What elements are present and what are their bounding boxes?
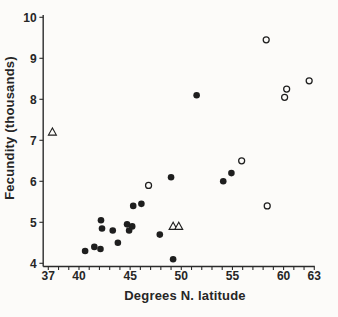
data-point-filled-circle bbox=[129, 223, 136, 230]
data-point-filled-circle bbox=[98, 217, 105, 224]
y-tick-label: 9 bbox=[30, 52, 37, 66]
scatter-figure: 3740455055606345678910 Degrees N. latitu… bbox=[0, 0, 338, 317]
x-tick-label: 45 bbox=[123, 269, 137, 283]
y-axis-title: Fecundity (thousands) bbox=[2, 56, 17, 200]
y-tick-label: 10 bbox=[23, 11, 37, 25]
data-point-open-circle bbox=[263, 37, 269, 43]
x-tick-label: 50 bbox=[175, 269, 189, 283]
x-tick-label: 55 bbox=[226, 269, 240, 283]
scatter-plot: 3740455055606345678910 Degrees N. latitu… bbox=[0, 0, 338, 317]
data-point-open-circle bbox=[239, 158, 245, 164]
data-point-filled-circle bbox=[220, 178, 227, 185]
x-tick-label: 40 bbox=[72, 269, 86, 283]
x-tick-label: 37 bbox=[42, 269, 56, 283]
x-tick-label: 63 bbox=[308, 269, 322, 283]
axis-ticks: 3740455055606345678910 bbox=[23, 11, 321, 284]
data-point-open-circle bbox=[264, 203, 270, 209]
y-tick-label: 7 bbox=[30, 134, 37, 148]
data-point-filled-circle bbox=[138, 201, 145, 208]
y-tick-label: 6 bbox=[30, 175, 37, 189]
data-points bbox=[48, 37, 312, 263]
x-tick-label: 60 bbox=[277, 269, 291, 283]
data-point-filled-circle bbox=[109, 227, 116, 234]
data-point-filled-circle bbox=[170, 256, 177, 263]
x-axis-title: Degrees N. latitude bbox=[124, 288, 246, 303]
data-point-filled-circle bbox=[91, 244, 98, 251]
data-point-filled-circle bbox=[82, 248, 89, 255]
data-point-open-circle bbox=[284, 86, 290, 92]
data-point-filled-circle bbox=[97, 246, 104, 253]
data-point-open-circle bbox=[146, 182, 152, 188]
y-tick-label: 8 bbox=[30, 93, 37, 107]
y-tick-label: 4 bbox=[30, 257, 37, 271]
data-point-filled-circle bbox=[193, 92, 200, 99]
data-point-open-triangle bbox=[48, 128, 56, 135]
data-point-filled-circle bbox=[115, 240, 122, 247]
data-point-filled-circle bbox=[228, 170, 235, 177]
data-point-open-triangle bbox=[175, 222, 183, 229]
y-tick-label: 5 bbox=[30, 216, 37, 230]
data-point-filled-circle bbox=[157, 231, 164, 238]
data-point-filled-circle bbox=[168, 174, 175, 181]
data-point-filled-circle bbox=[99, 225, 106, 232]
data-point-filled-circle bbox=[130, 203, 137, 210]
data-point-open-circle bbox=[282, 94, 288, 100]
data-point-open-circle bbox=[306, 78, 312, 84]
